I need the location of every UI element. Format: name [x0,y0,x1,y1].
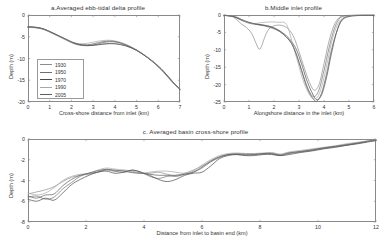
legend-entry-1970: 1970 [40,76,66,83]
panel-b-middle-inlet: b.Middle inlet profile 0123456 0-5-10-15… [196,4,391,122]
legend-label: 2005 [55,92,66,98]
x-tick-label: 4 [138,224,150,230]
x-tick-label: 8 [254,224,266,230]
legend-label: 1990 [55,84,66,90]
y-tick-label: -2 [11,157,25,163]
x-tick-label: 1 [44,104,56,110]
x-tick-label: 7 [174,104,186,110]
legend-entry-2005: 2005 [40,91,66,98]
x-tick-label: 4 [109,104,121,110]
x-tick-label: 2 [80,224,92,230]
x-tick-label: 5 [343,104,355,110]
panel-c-basin-cross-shore: c. Averaged basin cross-shore profile 02… [0,128,391,250]
series-line-1970 [28,141,376,202]
series-line-2005 [224,15,374,101]
panel-b-y-axis-label: Depth (m) [204,54,210,79]
legend-entry-1930: 1930 [40,61,66,68]
x-tick-label: 1 [243,104,255,110]
legend-entry-1950: 1950 [40,69,66,76]
x-tick-label: 4 [318,104,330,110]
y-tick-label: -20 [11,99,25,105]
legend-swatch-1930 [40,64,52,65]
y-tick-label: -5 [11,34,25,40]
y-tick-label: -10 [207,47,221,53]
y-tick-label: -20 [207,82,221,88]
legend-label: 1970 [55,77,66,83]
panel-c-x-axis-label: Distance from inlet to basin end (km) [28,230,376,236]
legend-label: 1930 [55,62,66,68]
panel-c-y-axis-label: Depth (m) [8,173,14,198]
y-tick-label: -5 [207,29,221,35]
x-tick-label: 6 [152,104,164,110]
x-tick-label: 6 [368,104,380,110]
y-tick-label: -8 [11,219,25,225]
panel-b-x-axis-label: Alongshore distance in the inlet (km) [224,110,374,116]
x-tick-label: 12 [370,224,382,230]
x-tick-label: 5 [131,104,143,110]
x-tick-label: 10 [312,224,324,230]
x-tick-label: 6 [196,224,208,230]
panel-a-ebb-tidal-delta: a.Averaged ebb-tidal delta profile 01234… [0,4,196,122]
x-tick-label: 3 [293,104,305,110]
y-tick-label: 0 [11,12,25,18]
series-line-1930 [224,15,374,90]
legend-swatch-1970 [40,79,52,80]
legend-entry-1990: 1990 [40,84,66,91]
legend-swatch-2005 [40,94,52,95]
panel-a-y-axis-label: Depth (m) [8,54,14,79]
panel-a-x-axis-label: Cross-shore distance from inlet (km) [28,110,180,116]
x-tick-label: 2 [268,104,280,110]
legend-swatch-1990 [40,87,52,88]
legend-swatch-1950 [40,72,52,73]
y-tick-label: -6 [11,198,25,204]
y-tick-label: 0 [207,12,221,18]
x-tick-label: 3 [87,104,99,110]
legend-label: 1950 [55,69,66,75]
x-tick-label: 2 [65,104,77,110]
y-tick-label: 0 [11,136,25,142]
y-tick-label: -25 [207,99,221,105]
series-line-1950 [28,141,376,200]
